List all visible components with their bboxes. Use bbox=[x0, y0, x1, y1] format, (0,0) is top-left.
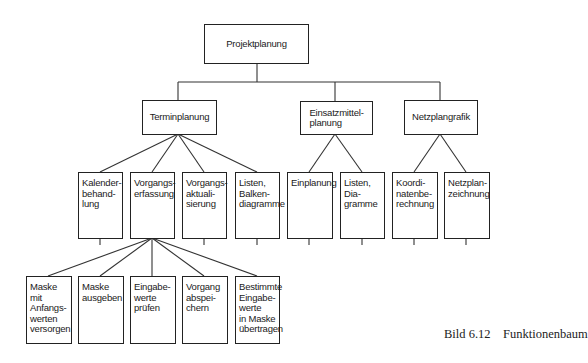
node-terminplanung: Terminplanung bbox=[142, 100, 217, 135]
figure-caption: Bild 6.12 Funktionenbaum bbox=[444, 327, 588, 342]
node-label: Eingabe- werte prüfen bbox=[134, 282, 174, 314]
node-label: Vorgangs- aktuali- sierung bbox=[186, 178, 225, 210]
node-listen-diagramme: Listen, Dia- gramme bbox=[340, 172, 385, 239]
node-einplanung: Einplanung bbox=[287, 172, 333, 239]
node-vorgang-abspeichern: Vorgang abspei- chern bbox=[182, 276, 228, 344]
node-label: Kalender- behand- lung bbox=[82, 178, 121, 210]
node-label: Einsatzmittel- planung bbox=[306, 108, 366, 129]
node-label: Maske mit Anfangs- werten versorgen bbox=[30, 282, 70, 335]
node-kalenderbehandlung: Kalender- behand- lung bbox=[78, 172, 123, 239]
node-maske-ausgeben: Maske ausgeben bbox=[78, 276, 124, 344]
node-netzplanzeichnung: Netzplan- zeichnung bbox=[444, 172, 490, 239]
node-label: Projektplanung bbox=[223, 39, 290, 50]
node-listen-balkendiagramme: Listen, Balken- diagramme bbox=[235, 172, 280, 239]
node-label: Listen, Dia- gramme bbox=[344, 178, 383, 210]
node-vorgangserfassung: Vorgangs- erfassung bbox=[130, 172, 175, 239]
node-label: Netzplan- zeichnung bbox=[448, 178, 488, 199]
node-vorgangsaktualisierung: Vorgangs- aktuali- sierung bbox=[182, 172, 227, 239]
node-label: Terminplanung bbox=[147, 112, 213, 123]
node-label: Bestimmte Eingabe- werte in Maske übertr… bbox=[239, 282, 278, 335]
node-label: Maske ausgeben bbox=[82, 282, 122, 303]
node-label: Netzplangrafik bbox=[409, 112, 473, 123]
node-label: Koordi- natenbe- rechnung bbox=[396, 178, 436, 210]
node-maske-mit-anfangswerten-versorgen: Maske mit Anfangs- werten versorgen bbox=[26, 276, 72, 344]
node-eingabewerte-pruefen: Eingabe- werte prüfen bbox=[130, 276, 176, 344]
node-projektplanung: Projektplanung bbox=[204, 24, 309, 64]
node-netzplangrafik: Netzplangrafik bbox=[404, 100, 478, 135]
node-label: Listen, Balken- diagramme bbox=[239, 178, 278, 210]
node-label: Vorgangs- erfassung bbox=[134, 178, 173, 199]
node-eingabewerte-in-maske-uebertragen: Bestimmte Eingabe- werte in Maske übertr… bbox=[235, 276, 280, 344]
node-label: Einplanung bbox=[291, 178, 331, 189]
node-label: Vorgang abspei- chern bbox=[186, 282, 226, 314]
node-einsatzmittelplanung: Einsatzmittel- planung bbox=[300, 101, 373, 135]
node-koordinatenberechnung: Koordi- natenbe- rechnung bbox=[392, 172, 438, 239]
